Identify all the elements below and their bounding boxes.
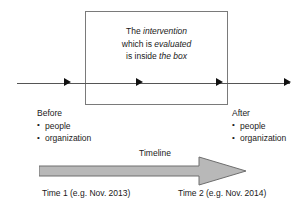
timeline-arrow-icon [39,155,247,187]
intervention-box-line-3-italic: the box [159,51,187,61]
intervention-timeline-diagram: The intervention which is evaluated is i… [0,0,307,210]
time-2-caption: Time 2 (e.g. Nov. 2014) [178,188,266,198]
intervention-box-line-1-italic: intervention [143,26,187,36]
after-bullet-item: organization [232,132,286,145]
after-bullet-item: people [232,120,286,133]
intervention-box-line-3-plain: is inside [126,51,159,61]
intervention-box-text: The intervention which is evaluated is i… [85,25,228,63]
after-block: After people organization [232,107,286,145]
after-heading: After [232,107,286,120]
before-block: Before people organization [37,107,91,145]
timeline-label: Timeline [110,148,200,158]
before-bullet-item: people [37,120,91,133]
after-bullet-list: people organization [232,120,286,145]
intervention-box-line-2-italic: evaluated [154,39,191,49]
intervention-box-line-2: which is evaluated [85,38,228,51]
intervention-box-line-2-plain: which is [122,39,155,49]
intervention-box-line-1: The intervention [85,25,228,38]
intervention-box-line-3: is inside the box [85,50,228,63]
before-bullet-list: people organization [37,120,91,145]
before-heading: Before [37,107,91,120]
axis-arrowhead-3-icon [216,78,223,86]
intervention-box-line-1-plain: The [126,26,143,36]
timeline-axis-line [17,83,290,84]
time-1-caption: Time 1 (e.g. Nov. 2013) [42,188,130,198]
axis-arrowhead-2-icon [136,78,143,86]
axis-arrowhead-1-icon [64,78,71,86]
before-bullet-item: organization [37,132,91,145]
axis-arrowhead-4-icon [284,78,291,86]
